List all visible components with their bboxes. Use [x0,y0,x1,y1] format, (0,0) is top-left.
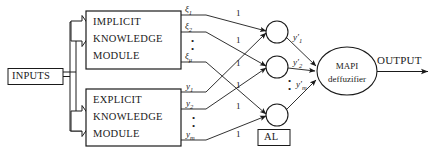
implicit-knowledge-module-box [86,11,181,69]
diagram-canvas: INPUTS IMPLICIT KNOWLEDGE MODULE EXPLICI… [0,0,437,151]
neuron-node-1 [266,21,288,43]
neuron-node-2 [266,56,288,78]
neuron-output-lines [287,38,316,109]
neuron-circles [266,21,288,126]
mapi-deffuzifier-ellipse [317,47,377,95]
inputs-box [8,69,63,85]
al-label-box [258,130,290,146]
explicit-signal-lines [181,33,266,140]
implicit-signal-lines [181,15,266,114]
neuron-node-3 [266,104,288,126]
diagram-vector-layer [0,0,437,151]
explicit-knowledge-module-box [86,89,181,146]
